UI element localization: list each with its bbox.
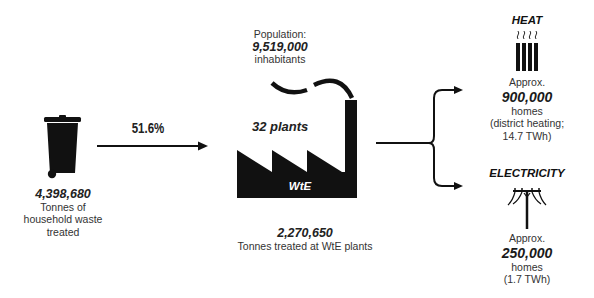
heat-detail-2: 14.7 TWh) <box>480 130 574 143</box>
population-block: Population: 9,519,000 inhabitants <box>240 28 320 66</box>
electricity-unit: homes <box>480 261 574 274</box>
wheelie-bin-icon <box>44 115 81 178</box>
population-unit: inhabitants <box>240 53 320 66</box>
heat-approx: Approx. <box>480 76 574 89</box>
treated-block: 2,270,650 Tonnes treated at WtE plants <box>230 227 380 252</box>
factory-label: WtE <box>285 180 315 192</box>
treated-label: Tonnes treated at WtE plants <box>230 240 380 253</box>
electricity-block: Approx. 250,000 homes (1.7 TWh) <box>480 232 574 286</box>
electricity-approx: Approx. <box>480 232 574 245</box>
electricity-detail-1: (1.7 TWh) <box>480 273 574 286</box>
electricity-homes-value: 250,000 <box>480 245 574 261</box>
waste-block: 4,398,680 Tonnes of household waste trea… <box>16 188 110 238</box>
power-pole-icon <box>508 188 546 229</box>
population-value: 9,519,000 <box>240 41 320 54</box>
waste-tonnes-value: 4,398,680 <box>16 188 110 201</box>
heat-homes-value: 900,000 <box>480 89 574 105</box>
waste-label-1: Tonnes of <box>16 201 110 214</box>
waste-label-3: treated <box>16 226 110 239</box>
electricity-title: ELECTRICITY <box>482 167 572 180</box>
heat-block: Approx. 900,000 homes (district heating;… <box>480 76 574 142</box>
treated-value: 2,270,650 <box>230 227 380 240</box>
flow-percentage: 51.6% <box>127 120 170 136</box>
population-label: Population: <box>240 28 320 41</box>
arrow-right-icon <box>97 142 208 151</box>
heat-title: HEAT <box>490 14 564 27</box>
split-arrow-icon <box>376 90 456 186</box>
heat-unit: homes <box>480 105 574 118</box>
waste-label-2: household waste <box>16 213 110 226</box>
radiator-icon <box>516 31 538 71</box>
smoke-icon <box>272 81 352 98</box>
heat-detail-1: (district heating; <box>480 117 574 130</box>
plants-count: 32 plants <box>252 119 332 134</box>
